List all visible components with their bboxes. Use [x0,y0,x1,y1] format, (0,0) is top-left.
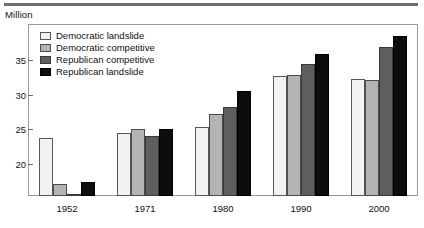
bar [117,133,131,196]
x-axis-tick-label: 1952 [56,203,77,214]
bar [81,182,95,196]
y-axis-tick-mark [28,164,33,165]
bar-group [273,24,329,196]
bar [351,79,365,196]
bar [237,91,251,196]
legend-swatch-icon [40,44,51,52]
x-axis-tick-label: 1980 [212,203,233,214]
legend-item-label: Democratic landslide [56,31,144,41]
legend-item: Democratic landslide [40,30,190,42]
y-axis-tick-mark [28,129,33,130]
bar-group [195,24,251,196]
bar [195,127,209,196]
y-axis-tick-label: 25 [15,124,26,135]
header-rule [4,3,418,6]
bar [365,80,379,196]
bar [209,114,223,196]
legend-item-label: Republican competitive [56,55,154,65]
bar [393,36,407,196]
bar [287,75,301,196]
bar [315,54,329,196]
legend-swatch-icon [40,56,51,64]
legend-item-label: Democratic competitive [56,43,155,53]
chart-figure: Million 20253035 Democratic landslideDem… [0,0,424,228]
bar [53,184,67,196]
chart-legend: Democratic landslideDemocratic competiti… [40,30,190,78]
bar [159,129,173,196]
legend-item: Republican landslide [40,66,190,78]
y-axis-tick-label: 30 [15,89,26,100]
legend-item: Republican competitive [40,54,190,66]
bar [67,194,81,196]
y-axis-ticks: 20253035 [0,0,26,228]
legend-swatch-icon [40,32,51,40]
bar [131,129,145,196]
y-axis-tick-label: 35 [15,55,26,66]
x-axis-tick-label: 2000 [368,203,389,214]
x-axis-tick-label: 1990 [290,203,311,214]
legend-swatch-icon [40,68,51,76]
y-axis-tick-label: 20 [15,158,26,169]
legend-item: Democratic competitive [40,42,190,54]
bar [379,47,393,196]
legend-item-label: Republican landslide [56,67,144,77]
y-axis-tick-mark [28,95,33,96]
bar [39,138,53,196]
bar-group [351,24,407,196]
bar [273,76,287,196]
bar [145,136,159,196]
y-axis-tick-mark [28,60,33,61]
bar [301,64,315,196]
bar [223,107,237,196]
x-axis-tick-label: 1971 [134,203,155,214]
